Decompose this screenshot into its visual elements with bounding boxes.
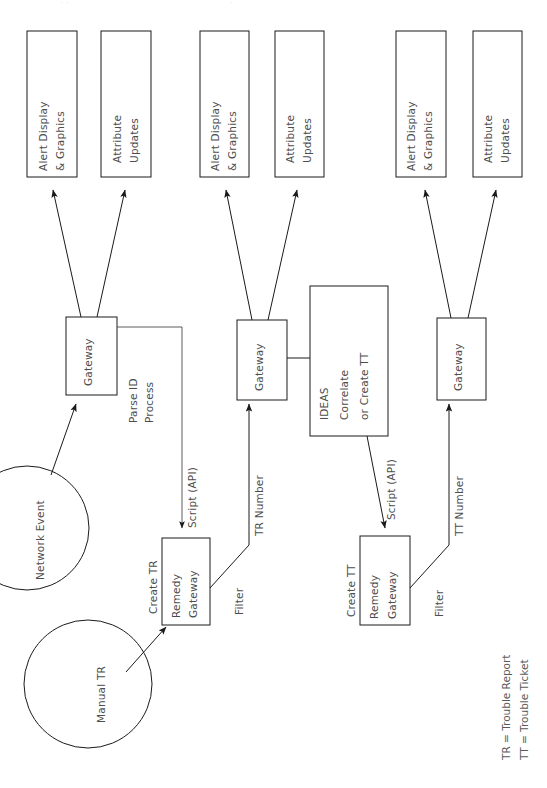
parse-id-label-line1: Parse ID	[127, 378, 139, 423]
edge-gateway1-to-alert-display	[53, 190, 81, 317]
diagram-svg: · · · Alert Display & Graphics Attribute…	[0, 0, 547, 788]
edge-manual-tr-to-remedy1	[126, 627, 166, 672]
legend-line-2: TT = Trouble Ticket	[518, 659, 530, 761]
attribute-updates-box-1: Attribute Updates	[101, 31, 151, 177]
gateway-box-3: Gateway	[437, 318, 486, 400]
alert-display-line2-1: & Graphics	[54, 111, 66, 171]
script-api-label-1: Script (API)	[186, 467, 198, 528]
ideas-line3: or Create TT	[358, 352, 370, 420]
alert-display-line2-2: & Graphics	[226, 111, 238, 171]
filter-label-1: Filter	[233, 587, 245, 615]
legend: TR = Trouble Report TT = Trouble Ticket	[500, 655, 530, 761]
attribute-updates-line2-2: Updates	[301, 118, 313, 163]
remedy-gateway-line2-2: Gateway	[386, 571, 398, 619]
edge-gateway3-to-attribute-updates	[468, 190, 496, 318]
script-api-label-2: Script (API)	[385, 459, 397, 520]
clipped-text-artifact-2: ·	[230, 0, 233, 8]
edge-network-event-to-gateway1	[51, 404, 76, 475]
create-tr-label: Create TR	[147, 560, 159, 614]
alert-display-line1-1: Alert Display	[37, 101, 49, 171]
gateway-box-2: Gateway	[237, 320, 287, 400]
attribute-updates-line1-1: Attribute	[111, 115, 123, 163]
alert-display-line1-3: Alert Display	[405, 101, 417, 171]
attribute-updates-line2-3: Updates	[499, 118, 511, 163]
attribute-updates-line2-1: Updates	[128, 118, 140, 163]
manual-tr-label: Manual TR	[95, 666, 107, 723]
parse-id-label-line2: Process	[143, 382, 155, 423]
attribute-updates-line1-3: Attribute	[482, 115, 494, 163]
diagram-canvas: · · · Alert Display & Graphics Attribute…	[0, 0, 547, 788]
edge-gateway1-to-attribute-updates	[97, 190, 125, 317]
edge-gateway2-to-alert-display	[226, 190, 252, 320]
remedy-gateway-line1-1: Remedy	[170, 574, 182, 618]
attribute-updates-box-3: Attribute Updates	[473, 31, 522, 177]
edge-remedy1-to-gateway2	[210, 404, 249, 588]
edge-gateway2-to-attribute-updates	[268, 190, 297, 320]
filter-label-2: Filter	[433, 589, 445, 617]
edge-remedy2-to-gateway3	[410, 404, 449, 588]
alert-display-line1-2: Alert Display	[209, 101, 221, 171]
ideas-line1: IDEAS	[318, 387, 330, 420]
clipped-text-artifact: · ·	[60, 0, 69, 8]
remedy-gateway-box-2: Remedy Gateway	[360, 536, 410, 625]
gateway-box-1: Gateway	[66, 317, 117, 395]
legend-line-1: TR = Trouble Report	[500, 655, 512, 761]
ideas-box: IDEAS Correlate or Create TT	[310, 286, 388, 436]
network-event-node: Network Event	[0, 466, 89, 590]
attribute-updates-box-2: Attribute Updates	[275, 31, 324, 177]
gateway-label-3: Gateway	[452, 343, 464, 391]
edge-gateway1-to-remedy1	[117, 327, 182, 528]
gateway-label-1: Gateway	[82, 338, 94, 386]
alert-display-box-3: Alert Display & Graphics	[396, 31, 446, 177]
tr-number-label: TR Number	[253, 474, 265, 537]
create-tt-label: Create TT	[345, 564, 357, 617]
remedy-gateway-line2-1: Gateway	[187, 570, 199, 618]
attribute-updates-line1-2: Attribute	[284, 115, 296, 163]
gateway-label-2: Gateway	[253, 343, 265, 391]
remedy-gateway-line1-2: Remedy	[368, 575, 380, 619]
alert-display-box-1: Alert Display & Graphics	[27, 31, 77, 177]
alert-display-line2-3: & Graphics	[422, 111, 434, 171]
network-event-label: Network Event	[34, 500, 46, 580]
tt-number-label: TT Number	[453, 476, 465, 537]
remedy-gateway-box-1: Remedy Gateway	[162, 538, 210, 625]
edge-gateway3-to-alert-display	[425, 190, 451, 318]
alert-display-box-2: Alert Display & Graphics	[200, 31, 249, 177]
edge-ideas-to-remedy2	[367, 436, 385, 528]
ideas-line2: Correlate	[338, 370, 350, 420]
manual-tr-node: Manual TR	[24, 620, 152, 748]
